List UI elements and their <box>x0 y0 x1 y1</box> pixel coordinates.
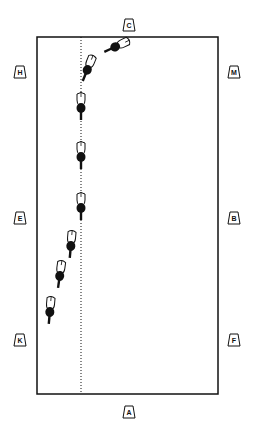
marker-c: C <box>123 19 135 31</box>
marker-letter: F <box>232 337 237 344</box>
dressage-arena-diagram: CHMEBKFA <box>0 0 259 443</box>
arena-boundary <box>37 37 218 394</box>
horse-rider-icon <box>77 192 86 220</box>
horse-rider-icon <box>77 141 86 169</box>
marker-letter: A <box>126 409 131 416</box>
marker-m: M <box>228 66 240 78</box>
marker-letter: C <box>126 22 131 29</box>
marker-k: K <box>14 334 26 346</box>
horse-rider-icon <box>102 36 131 56</box>
marker-letter: E <box>18 215 23 222</box>
marker-f: F <box>228 334 240 346</box>
marker-e: E <box>14 212 26 224</box>
horse-rider-icon <box>54 260 67 289</box>
marker-letter: H <box>17 69 22 76</box>
marker-h: H <box>14 66 26 78</box>
marker-letter: M <box>231 69 237 76</box>
marker-b: B <box>228 212 240 224</box>
marker-letter: B <box>231 215 236 222</box>
marker-a: A <box>123 406 135 418</box>
horse-rider-icon <box>65 230 76 259</box>
horse-rider-icon <box>77 92 86 120</box>
horse-rider-icon <box>44 296 55 325</box>
marker-letter: K <box>17 337 22 344</box>
